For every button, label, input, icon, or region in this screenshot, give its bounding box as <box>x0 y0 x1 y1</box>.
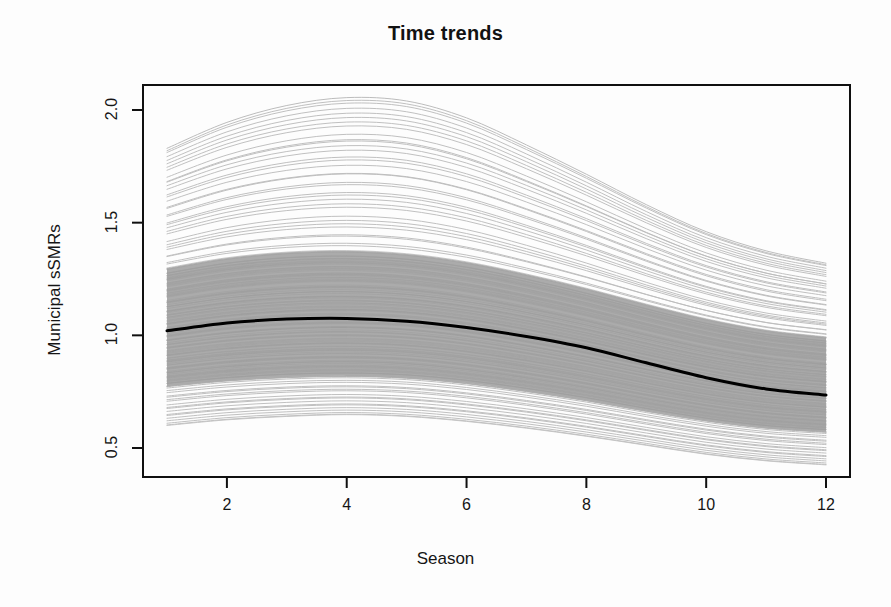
municipal-curve <box>167 108 826 268</box>
x-tick-label: 8 <box>566 496 606 514</box>
plot-canvas <box>0 0 891 607</box>
x-tick-label: 2 <box>207 496 247 514</box>
chart-figure: Time trends Municipal sSMRs Season 0.51.… <box>0 0 891 607</box>
y-tick-label: 1.5 <box>103 202 121 242</box>
x-tick-label: 10 <box>686 496 726 514</box>
y-tick-label: 0.5 <box>103 427 121 467</box>
y-axis-label: Municipal sSMRs <box>45 170 65 410</box>
municipal-curves-layer <box>167 97 826 465</box>
municipal-curve-envelope-upper <box>167 97 826 263</box>
chart-title: Time trends <box>0 22 891 45</box>
y-tick-label: 1.0 <box>103 314 121 354</box>
y-tick-label: 2.0 <box>103 89 121 129</box>
x-axis-label: Season <box>0 549 891 569</box>
x-tick-label: 4 <box>327 496 367 514</box>
x-tick-label: 6 <box>447 496 487 514</box>
x-tick-label: 12 <box>806 496 846 514</box>
